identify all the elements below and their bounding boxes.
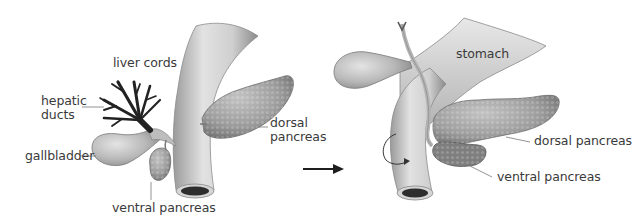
label-liver-cords: liver cords (113, 56, 177, 70)
label-hepatic-ducts-line2: ducts (41, 108, 75, 122)
label-hepatic-ducts-line1: hepatic (41, 94, 87, 108)
left-panel-artwork (80, 23, 293, 200)
pancreas-development-diagram: liver cords hepatic ducts gallbladder do… (0, 0, 636, 223)
ventral-pancreas-right (433, 142, 486, 167)
hepatic-ducts-left (100, 82, 160, 130)
label-stomach: stomach (456, 47, 509, 61)
label-ventral-pancreas-right: ventral pancreas (497, 170, 601, 184)
label-dorsal-pancreas-line2: pancreas (270, 130, 326, 144)
label-dorsal-pancreas-line1: dorsal (270, 116, 308, 130)
label-ventral-pancreas-left: ventral pancreas (112, 201, 216, 215)
label-gallbladder: gallbladder (25, 149, 94, 163)
diagram-artwork (0, 0, 636, 223)
right-arrow-icon (303, 164, 344, 174)
label-dorsal-pancreas-right: dorsal pancreas (534, 134, 632, 148)
